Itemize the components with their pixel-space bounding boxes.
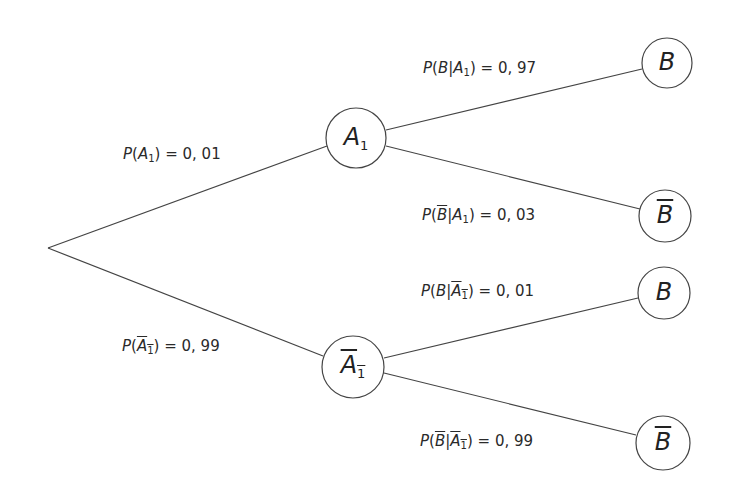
edge-label-P-A1: P(A1) = 0, 01 xyxy=(123,145,221,163)
node-notA1-label: A1 xyxy=(333,351,373,379)
probability-value: 0, 01 xyxy=(183,145,221,163)
edge-label-P-notB-given-notA1: P(B|A1) = 0, 99 xyxy=(420,432,533,450)
tree-canvas xyxy=(0,0,729,491)
equals: = xyxy=(159,337,181,355)
equals: = xyxy=(474,282,496,300)
node-B-top-label: B xyxy=(652,48,682,76)
subscript: 1 xyxy=(464,67,470,78)
subscript: 1 xyxy=(462,290,468,301)
event: B xyxy=(436,282,446,300)
node-B-bottom-label: B xyxy=(649,278,679,306)
node-letter: B xyxy=(657,201,673,229)
node-A1-label: A1 xyxy=(336,123,376,151)
probability-value: 0, 99 xyxy=(495,432,533,450)
event: A xyxy=(137,337,147,355)
edge-notA1-notB xyxy=(384,373,636,435)
subscript: 1 xyxy=(360,138,368,153)
subscript: 1 xyxy=(463,214,469,225)
p-symbol: P xyxy=(123,145,132,163)
equals: = xyxy=(160,145,182,163)
edge-label-P-B-given-notA1: P(B|A1) = 0, 01 xyxy=(421,282,534,300)
equals: = xyxy=(473,432,495,450)
p-symbol: P xyxy=(420,432,429,450)
event: B xyxy=(438,59,448,77)
edge-A1-B xyxy=(386,69,642,130)
p-symbol: P xyxy=(422,206,431,224)
p-symbol: P xyxy=(423,59,432,77)
subscript: 1 xyxy=(357,366,365,381)
event: A xyxy=(452,206,462,224)
event: A xyxy=(450,432,460,450)
subscript: 1 xyxy=(461,440,467,451)
event: A xyxy=(451,282,461,300)
p-symbol: P xyxy=(122,337,131,355)
event: B xyxy=(437,206,447,224)
equals: = xyxy=(476,59,498,77)
event: B xyxy=(435,432,445,450)
edge-notA1-B xyxy=(384,298,638,358)
node-notB-bottom-label: B xyxy=(648,428,678,456)
subscript: 1 xyxy=(148,153,154,164)
node-notB-top-label: B xyxy=(650,201,680,229)
node-letter: B xyxy=(659,48,675,76)
node-letter: B xyxy=(655,428,671,456)
edge-label-P-notA1: P(A1) = 0, 99 xyxy=(122,337,220,355)
node-letter: B xyxy=(656,278,672,306)
equals: = xyxy=(475,206,497,224)
subscript: 1 xyxy=(147,345,153,356)
p-symbol: P xyxy=(421,282,430,300)
event: A xyxy=(138,145,148,163)
probability-value: 0, 97 xyxy=(498,59,536,77)
probability-value: 0, 01 xyxy=(496,282,534,300)
probability-value: 0, 03 xyxy=(497,206,535,224)
edge-A1-notB xyxy=(386,146,640,209)
node-letter: A xyxy=(344,123,360,151)
edge-label-P-notB-given-A1: P(B|A1) = 0, 03 xyxy=(422,206,535,224)
node-letter: A xyxy=(341,351,357,379)
probability-value: 0, 99 xyxy=(182,337,220,355)
edge-label-P-B-given-A1: P(B|A1) = 0, 97 xyxy=(423,59,536,77)
event: A xyxy=(453,59,463,77)
